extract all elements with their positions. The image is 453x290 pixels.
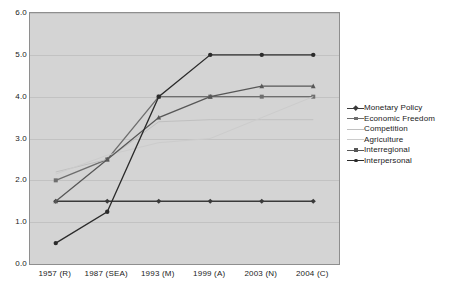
data-point-marker: [105, 199, 110, 204]
legend-swatch-icon: [347, 156, 364, 165]
line-chart-figure: 6.05.04.03.02.01.00.0 1957 (R)1987 (SEA)…: [0, 0, 453, 290]
x-tick-label: 1999 (A): [193, 269, 225, 279]
series-line: [56, 55, 314, 243]
y-tick-label: 6.0: [2, 8, 27, 17]
data-point-marker: [105, 210, 109, 214]
chart-legend: Monetary PolicyEconomic FreedomCompetiti…: [347, 103, 453, 166]
legend-item-interregional[interactable]: Interregional: [347, 145, 453, 156]
data-point-marker: [156, 199, 161, 204]
legend-item-agriculture[interactable]: Agriculture: [347, 135, 453, 146]
data-point-marker: [157, 94, 161, 98]
plot-area: [29, 12, 340, 265]
legend-item-label: Agriculture: [364, 135, 403, 145]
y-axis: 6.05.04.03.02.01.00.0: [0, 0, 27, 290]
legend-item-competition[interactable]: Competition: [347, 124, 453, 135]
data-point-marker: [259, 199, 264, 204]
x-tick-label: 2004 (C): [296, 269, 329, 279]
legend-item-label: Monetary Policy: [364, 103, 422, 113]
data-point-marker: [208, 53, 212, 57]
legend-swatch-icon: [347, 104, 364, 113]
series-monetary-policy: [53, 199, 316, 204]
data-point-marker: [311, 199, 316, 204]
legend-item-label: Interpersonal: [364, 156, 412, 166]
series-line: [56, 97, 314, 181]
series-interregional: [53, 84, 315, 204]
legend-item-monetary-policy[interactable]: Monetary Policy: [347, 103, 453, 114]
legend-item-economic-freedom[interactable]: Economic Freedom: [347, 114, 453, 125]
data-point-marker: [311, 53, 315, 57]
series-interpersonal: [54, 53, 316, 246]
legend-item-label: Economic Freedom: [364, 114, 435, 124]
x-tick-label: 1957 (R): [38, 269, 71, 279]
data-point-marker: [54, 241, 58, 245]
legend-swatch-icon: [347, 114, 364, 123]
x-axis: 1957 (R)1987 (SEA)1993 (M)1999 (A)2003 (…: [29, 269, 340, 285]
y-tick-label: 0.0: [2, 259, 27, 268]
legend-item-interpersonal[interactable]: Interpersonal: [347, 156, 453, 167]
legend-item-label: Competition: [364, 124, 408, 134]
data-point-marker: [260, 95, 264, 99]
data-point-marker: [54, 178, 58, 182]
y-tick-label: 1.0: [2, 217, 27, 226]
series-line: [56, 86, 314, 201]
legend-item-label: Interregional: [364, 145, 410, 155]
x-tick-label: 1993 (M): [141, 269, 175, 279]
y-tick-label: 2.0: [2, 175, 27, 184]
x-tick-label: 1987 (SEA): [85, 269, 128, 279]
y-tick-label: 4.0: [2, 92, 27, 101]
y-tick-label: 5.0: [2, 50, 27, 59]
legend-swatch-icon: [347, 125, 364, 134]
series-layer: [30, 13, 339, 264]
legend-swatch-icon: [347, 135, 364, 144]
x-tick-label: 2003 (N): [244, 269, 277, 279]
data-point-marker: [260, 53, 264, 57]
y-tick-label: 3.0: [2, 134, 27, 143]
legend-swatch-icon: [347, 146, 364, 155]
data-point-marker: [208, 199, 213, 204]
